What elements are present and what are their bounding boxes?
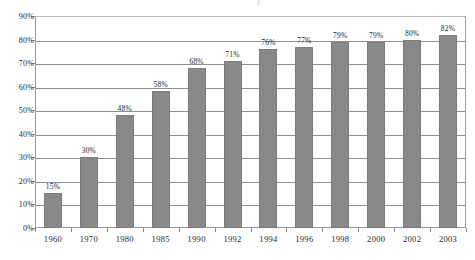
bar[interactable] <box>295 47 313 228</box>
bar-value-label: 58% <box>154 80 168 89</box>
x-axis-tick <box>430 228 431 232</box>
x-axis-label: 1992 <box>223 234 241 244</box>
y-axis-label: 20% <box>0 176 34 185</box>
bar-slot: 48% <box>107 16 143 228</box>
x-axis-label: 2000 <box>367 234 385 244</box>
bar-value-label: 80% <box>405 29 419 38</box>
bar[interactable] <box>80 157 98 228</box>
bar-value-label: 79% <box>369 31 383 40</box>
y-axis-label: 50% <box>0 106 34 115</box>
bar-slot: 30% <box>71 16 107 228</box>
y-axis-label: 40% <box>0 129 34 138</box>
bar-value-label: 71% <box>225 50 239 59</box>
bar[interactable] <box>403 40 421 228</box>
x-axis-label: 1970 <box>80 234 98 244</box>
clipped-title-artifact <box>257 0 260 5</box>
bar-slot: 77% <box>286 16 322 228</box>
x-axis-tick <box>107 228 108 232</box>
bar[interactable] <box>116 115 134 228</box>
x-axis-label: 1985 <box>152 234 170 244</box>
bar-slot: 79% <box>322 16 358 228</box>
y-axis-label: 10% <box>0 200 34 209</box>
bars-layer: 15%30%48%58%68%71%76%77%79%79%80%82% <box>35 16 466 228</box>
y-axis-label: 60% <box>0 82 34 91</box>
bar[interactable] <box>331 42 349 228</box>
bar-value-label: 48% <box>118 104 132 113</box>
bar[interactable] <box>367 42 385 228</box>
bar-slot: 68% <box>179 16 215 228</box>
x-axis-tick <box>358 228 359 232</box>
bar-slot: 58% <box>143 16 179 228</box>
x-axis-label: 1990 <box>188 234 206 244</box>
x-axis-tick <box>286 228 287 232</box>
bar-value-label: 76% <box>261 38 275 47</box>
y-axis-label: 80% <box>0 35 34 44</box>
bar-value-label: 82% <box>441 24 455 33</box>
bar-value-label: 77% <box>297 36 311 45</box>
bar-slot: 71% <box>215 16 251 228</box>
bar[interactable] <box>224 61 242 228</box>
bar[interactable] <box>44 193 62 228</box>
x-axis-tick <box>322 228 323 232</box>
bar-value-label: 68% <box>189 57 203 66</box>
x-axis-label: 2003 <box>439 234 457 244</box>
x-axis-label: 1998 <box>331 234 349 244</box>
y-axis-label: 90% <box>0 12 34 21</box>
x-axis-label: 1980 <box>116 234 134 244</box>
bar-slot: 80% <box>394 16 430 228</box>
x-axis-tick <box>215 228 216 232</box>
bar-slot: 76% <box>251 16 287 228</box>
bar[interactable] <box>188 68 206 228</box>
bar-chart: 0%10%20%30%40%50%60%70%80%90% 15%30%48%5… <box>0 0 475 260</box>
x-axis-tick <box>466 228 467 232</box>
bar-slot: 82% <box>430 16 466 228</box>
bar[interactable] <box>439 35 457 228</box>
y-axis-label: 70% <box>0 59 34 68</box>
bar-value-label: 15% <box>46 182 60 191</box>
x-axis-tick <box>179 228 180 232</box>
y-axis-label: 0% <box>0 224 34 233</box>
bar[interactable] <box>152 91 170 228</box>
x-axis-label: 1960 <box>44 234 62 244</box>
x-axis-tick <box>394 228 395 232</box>
x-axis-tick <box>251 228 252 232</box>
x-axis-label: 1994 <box>259 234 277 244</box>
bar[interactable] <box>259 49 277 228</box>
x-axis-tick <box>71 228 72 232</box>
bar-slot: 15% <box>35 16 71 228</box>
y-axis-label: 30% <box>0 153 34 162</box>
x-axis-tick <box>35 228 36 232</box>
bar-value-label: 30% <box>82 146 96 155</box>
x-axis-label: 1996 <box>295 234 313 244</box>
x-axis-label: 2002 <box>403 234 421 244</box>
bar-slot: 79% <box>358 16 394 228</box>
x-axis-tick <box>143 228 144 232</box>
bar-value-label: 79% <box>333 31 347 40</box>
